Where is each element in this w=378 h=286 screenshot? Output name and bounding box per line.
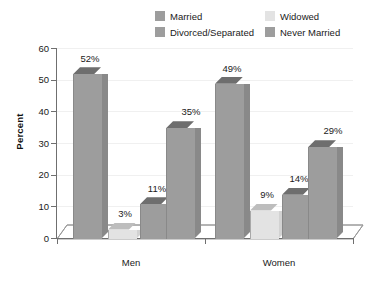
bar-men-never-married [166,128,194,239]
y-tick-60 [51,48,56,49]
legend-label-widowed: Widowed [280,11,319,22]
legend-swatch-never-married-icon [265,27,275,37]
x-tick-left [57,239,58,244]
legend-swatch-widowed-icon [265,11,275,21]
bar-men-divorced-separated [140,204,168,239]
bar-front-face [308,147,337,239]
bar-side-face [336,147,343,239]
legend-item-widowed: Widowed [265,11,370,22]
bar-label-men-married: 52% [68,54,112,64]
bar-front-face [108,230,137,240]
x-axis-label-women: Women [239,258,319,268]
bar-front-face [250,211,279,240]
bar-women-widowed [250,211,278,240]
bar-front-face [282,195,311,239]
y-axis-line [56,48,57,239]
bar-side-face [194,128,201,239]
bar-women-married [215,84,243,239]
y-tick-label-20: 20 [9,170,49,180]
x-tick-middle [205,239,206,244]
bar-women-divorced-separated [282,195,310,239]
bar-front-face [140,204,169,239]
legend-item-divorced-separated: Divorced/Separated [155,27,265,38]
y-tick-label-30: 30 [9,139,49,149]
bar-label-women-married: 49% [210,64,254,74]
x-tick-right [353,239,354,244]
y-tick-20 [51,175,56,176]
legend-item-married: Married [155,11,265,22]
y-tick-label-10: 10 [9,202,49,212]
bar-front-face [73,74,102,239]
legend-label-divorced-separated: Divorced/Separated [170,27,254,38]
legend-swatch-divorced-separated-icon [155,27,165,37]
bar-label-women-never-married: 29% [311,126,355,136]
y-tick-30 [51,143,56,144]
y-tick-0 [51,238,56,239]
bar-front-face [166,128,195,239]
y-tick-label-0: 0 [9,234,49,244]
bar-front-face [215,84,244,239]
legend-label-never-married: Never Married [280,27,340,38]
y-tick-label-40: 40 [9,107,49,117]
y-tick-50 [51,80,56,81]
legend-label-married: Married [170,11,202,22]
legend-item-never-married: Never Married [265,27,370,38]
y-tick-10 [51,206,56,207]
legend-swatch-married-icon [155,11,165,21]
bar-men-widowed [108,230,136,240]
bar-men-married [73,74,101,239]
bar-side-face [243,84,250,239]
bar-label-men-never-married: 35% [169,107,213,117]
y-tick-label-60: 60 [9,44,49,54]
y-tick-40 [51,111,56,112]
chart-legend: Married Widowed Divorced/Separated Never… [155,8,370,40]
bar-women-never-married [308,147,336,239]
x-axis-label-men: Men [91,258,171,268]
y-tick-label-50: 50 [9,75,49,85]
gridline-60 [57,48,353,49]
